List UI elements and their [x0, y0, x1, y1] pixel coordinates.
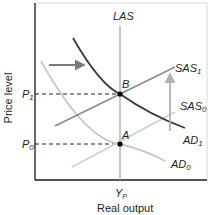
sas1-curve [55, 67, 175, 126]
point-a [117, 141, 122, 146]
point-b-label: B [122, 78, 129, 90]
sas1-label: SAS1 [175, 62, 201, 76]
ad0-label: AD0 [170, 158, 191, 172]
p1-tick-label: P1 [22, 88, 34, 102]
y-axis-label: Price level [2, 73, 14, 124]
ad1-label: AD1 [182, 134, 203, 148]
x-axis-label: Real output [97, 202, 153, 214]
ad-as-diagram: LAS SAS1 SAS0 AD1 AD0 B A P1 P0 YP Real … [0, 0, 208, 215]
point-a-label: A [121, 129, 129, 141]
plot-frame [35, 3, 207, 180]
yp-tick-label: YP [115, 187, 127, 200]
point-b [117, 91, 122, 96]
sas0-label: SAS0 [180, 100, 207, 114]
p0-tick-label: P0 [22, 138, 34, 152]
las-label: LAS [113, 10, 134, 22]
